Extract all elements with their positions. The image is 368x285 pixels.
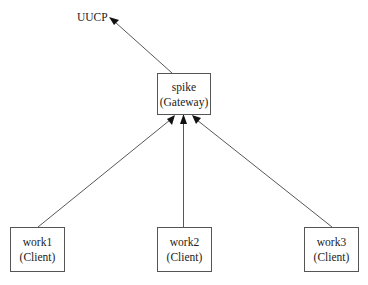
edge-line [197,120,332,227]
node-work1[interactable]: work1 (Client) [11,228,65,272]
node-name: work1 [23,236,53,248]
arrowhead-icon [180,114,187,124]
node-work2[interactable]: work2 (Client) [158,228,212,272]
node-spike[interactable]: spike (Gateway) [158,74,211,115]
node-name: work3 [317,236,347,248]
uucp-label: UUCP [77,11,108,23]
node-work3[interactable]: work3 (Client) [305,228,359,272]
edge-line [115,22,172,73]
edge-line [38,120,170,227]
node-role: (Client) [20,251,56,264]
node-box [305,228,359,272]
edge-work3-to-spike [192,115,332,227]
node-box [158,74,211,115]
node-role: (Gateway) [160,96,209,109]
edge-work2-to-spike [180,114,187,227]
network-diagram: UUCP spike (Gateway) work1 (Client) work… [0,0,368,285]
node-role: (Client) [167,251,203,264]
edge-spike-to-uucp [109,17,172,73]
node-name: spike [172,81,196,94]
arrowhead-icon [167,115,175,125]
node-box [158,228,212,272]
edge-work1-to-spike [38,115,175,227]
node-box [11,228,65,272]
node-name: work2 [170,236,200,248]
node-role: (Client) [314,251,350,264]
